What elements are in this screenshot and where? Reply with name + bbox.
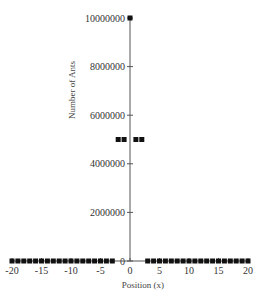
- data-point: [98, 259, 103, 264]
- data-point: [169, 259, 174, 264]
- y-tick-label: 10000000: [85, 13, 125, 24]
- x-tick-label: -20: [5, 265, 18, 276]
- data-point: [92, 259, 97, 264]
- data-point: [163, 259, 168, 264]
- data-point: [240, 259, 245, 264]
- data-point: [228, 259, 233, 264]
- data-point: [86, 259, 91, 264]
- x-axis-title: Position (x): [122, 280, 164, 290]
- data-point: [192, 259, 197, 264]
- data-point: [104, 259, 109, 264]
- y-tick-label: 8000000: [90, 61, 125, 72]
- x-tick-label: 5: [157, 265, 162, 276]
- data-point: [139, 137, 144, 142]
- data-point: [198, 259, 203, 264]
- data-point: [51, 259, 56, 264]
- data-point: [157, 259, 162, 264]
- data-point: [234, 259, 239, 264]
- x-tick-label: 10: [184, 265, 194, 276]
- data-point: [45, 259, 50, 264]
- data-point: [133, 137, 138, 142]
- data-point: [21, 259, 26, 264]
- y-axis-title: Number of Ants: [67, 61, 77, 119]
- data-point: [187, 259, 192, 264]
- data-point: [122, 137, 127, 142]
- data-point: [145, 259, 150, 264]
- data-point: [216, 259, 221, 264]
- data-point: [39, 259, 44, 264]
- y-tick-label: 4000000: [90, 158, 125, 169]
- data-point: [63, 259, 68, 264]
- x-tick-label: -10: [64, 265, 77, 276]
- data-point: [33, 259, 38, 264]
- data-point: [116, 137, 121, 142]
- data-point: [10, 259, 15, 264]
- y-tick-label: 2000000: [90, 207, 125, 218]
- data-point: [204, 259, 209, 264]
- data-point: [80, 259, 85, 264]
- y-tick-label: 6000000: [90, 110, 125, 121]
- data-point: [181, 259, 186, 264]
- x-tick-label: 0: [128, 265, 133, 276]
- data-point: [15, 259, 20, 264]
- data-point: [57, 259, 62, 264]
- data-point: [222, 259, 227, 264]
- data-point: [175, 259, 180, 264]
- x-tick-label: 20: [243, 265, 253, 276]
- data-point: [151, 259, 156, 264]
- x-tick-label: -15: [35, 265, 48, 276]
- data-point: [128, 16, 133, 21]
- x-tick-label: 15: [214, 265, 224, 276]
- data-point: [74, 259, 79, 264]
- data-point: [69, 259, 74, 264]
- data-point: [27, 259, 32, 264]
- scatter-chart: 0200000040000006000000800000010000000 -2…: [0, 0, 272, 300]
- x-tick-label: -5: [96, 265, 104, 276]
- data-point: [210, 259, 215, 264]
- data-point: [246, 259, 251, 264]
- data-point: [110, 259, 115, 264]
